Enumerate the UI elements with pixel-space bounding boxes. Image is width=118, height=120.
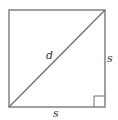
right-angle-marker — [94, 96, 105, 107]
square-diagonal-diagram: d s s — [0, 0, 118, 120]
diagonal-line — [9, 10, 105, 107]
diagonal-label: d — [46, 49, 53, 62]
right-side-label: s — [107, 52, 113, 65]
bottom-side-label: s — [53, 107, 59, 120]
